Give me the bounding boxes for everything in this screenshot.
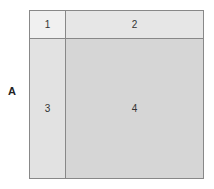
row-label-a: A xyxy=(8,85,16,97)
quadrant-grid: 1 2 3 4 xyxy=(29,10,204,179)
cell-4: 4 xyxy=(66,39,203,178)
cell-1: 1 xyxy=(30,11,66,39)
cell-2: 2 xyxy=(66,11,203,39)
cell-3: 3 xyxy=(30,39,66,178)
